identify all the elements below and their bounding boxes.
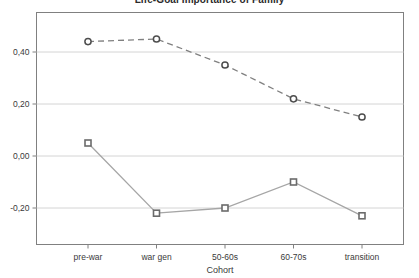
x-tick-label: war gen: [140, 252, 172, 262]
data-point-marker: [222, 205, 228, 211]
data-point-marker: [291, 179, 297, 185]
data-point-marker: [222, 62, 228, 68]
x-axis-title: Cohort: [206, 265, 234, 275]
data-point-marker: [359, 213, 365, 219]
y-axis-ticks: 0,400,200,00-0,20: [10, 47, 36, 213]
data-point-marker: [153, 36, 159, 42]
y-tick-label: -0,20: [10, 203, 30, 213]
y-tick-label: 0,20: [13, 99, 30, 109]
data-point-marker: [359, 114, 365, 120]
x-tick-label: pre-war: [74, 252, 103, 262]
y-tick-label: 0,40: [13, 47, 30, 57]
data-point-marker: [85, 39, 91, 45]
y-tick-label: 0,00: [13, 151, 30, 161]
data-point-marker: [290, 96, 296, 102]
chart-container: Life-Goal Importance of Family 0,400,200…: [0, 0, 419, 278]
x-tick-label: transition: [345, 252, 380, 262]
x-tick-label: 60-70s: [281, 252, 307, 262]
x-axis-ticks: pre-warwar gen50-60s60-70stransition: [74, 245, 380, 262]
chart-plot-area: 0,400,200,00-0,20 pre-warwar gen50-60s60…: [0, 0, 419, 278]
data-point-marker: [154, 210, 160, 216]
x-tick-label: 50-60s: [212, 252, 238, 262]
data-point-marker: [85, 140, 91, 146]
